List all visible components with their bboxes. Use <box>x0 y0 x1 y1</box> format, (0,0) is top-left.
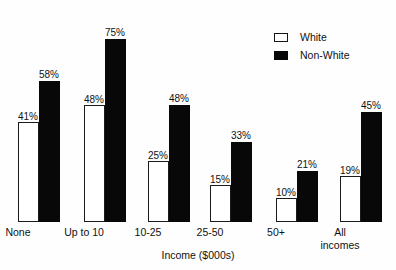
category-label-line1: None <box>5 226 30 238</box>
category-label-line1: 10-25 <box>135 226 162 238</box>
bar-value-label: 75% <box>105 27 125 38</box>
category-label-10-25: 10-25 <box>135 226 162 239</box>
white-square-icon <box>274 33 288 42</box>
bar-value-label: 10% <box>276 187 296 198</box>
bar-nonwhite-50-plus[interactable]: 21% <box>297 171 318 222</box>
bar-value-label: 48% <box>84 94 104 105</box>
legend-label-white: White <box>300 31 327 43</box>
bar-pair: 48% 75% <box>84 48 126 222</box>
bar-white-up-to-10[interactable]: 48% <box>84 105 105 222</box>
chart-legend: White Non-White <box>274 28 350 64</box>
bar-value-label: 48% <box>169 93 189 104</box>
bar-white-none[interactable]: 41% <box>18 122 39 222</box>
category-label-line1: 25-50 <box>197 226 224 238</box>
black-square-icon <box>274 51 288 60</box>
bar-pair: 19% 45% <box>340 48 382 222</box>
bar-nonwhite-up-to-10[interactable]: 75% <box>105 39 126 222</box>
category-label-all-incomes: All incomes <box>320 226 359 251</box>
bar-nonwhite-10-25[interactable]: 48% <box>169 105 190 222</box>
category-label-none: None <box>5 226 30 239</box>
category-label-50-plus: 50+ <box>267 226 285 239</box>
bar-value-label: 45% <box>361 100 381 111</box>
legend-label-non-white: Non-White <box>300 49 350 61</box>
bar-pair: 25% 48% <box>148 48 190 222</box>
bar-white-all-incomes[interactable]: 19% <box>340 176 361 222</box>
category-label-line1: 50+ <box>267 226 285 238</box>
bar-white-50-plus[interactable]: 10% <box>276 198 297 222</box>
category-label-line1: Up to 10 <box>64 226 104 238</box>
bar-value-label: 41% <box>18 111 38 122</box>
bar-nonwhite-all-incomes[interactable]: 45% <box>361 112 382 222</box>
bar-chart: 41% 58% None 48% 75% Up to 10 <box>0 0 396 270</box>
bar-value-label: 15% <box>210 174 230 185</box>
bar-value-label: 33% <box>231 130 251 141</box>
legend-item-non-white[interactable]: Non-White <box>274 46 350 64</box>
bar-white-10-25[interactable]: 25% <box>148 161 169 222</box>
bar-value-label: 19% <box>340 165 360 176</box>
bar-nonwhite-none[interactable]: 58% <box>39 81 60 223</box>
category-label-25-50: 25-50 <box>197 226 224 239</box>
bar-pair: 15% 33% <box>210 48 252 222</box>
x-axis-title: Income ($000s) <box>0 249 396 261</box>
category-label-up-to-10: Up to 10 <box>64 226 104 239</box>
bar-nonwhite-25-50[interactable]: 33% <box>231 142 252 223</box>
bar-value-label: 21% <box>297 159 317 170</box>
bar-value-label: 25% <box>148 150 168 161</box>
bar-value-label: 58% <box>39 69 59 80</box>
plot-area: 41% 58% None 48% 75% Up to 10 <box>0 0 396 270</box>
bar-pair: 41% 58% <box>18 48 60 222</box>
legend-item-white[interactable]: White <box>274 28 350 46</box>
category-label-line1: All <box>334 226 346 238</box>
bar-pair: 10% 21% <box>276 48 318 222</box>
bar-white-25-50[interactable]: 15% <box>210 185 231 222</box>
